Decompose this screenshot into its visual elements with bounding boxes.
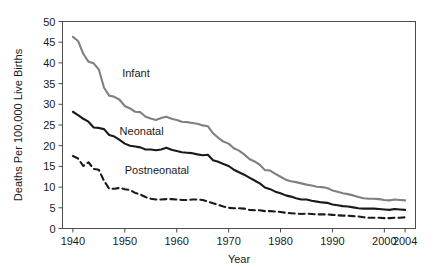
y-tick-label: 0 xyxy=(49,223,55,235)
y-tick-label: 30 xyxy=(43,98,55,110)
x-tick-label: 1940 xyxy=(61,235,85,247)
x-tick-label: 1960 xyxy=(164,235,188,247)
y-tick-label: 45 xyxy=(43,36,55,48)
y-tick-label: 20 xyxy=(43,140,55,152)
y-tick-label: 40 xyxy=(43,57,55,69)
y-axis-ticks: 05101520253035404550 xyxy=(43,16,62,235)
series-annotation-postneonatal: Postneonatal xyxy=(125,164,189,176)
x-tick-label: 1980 xyxy=(268,235,292,247)
y-tick-label: 25 xyxy=(43,119,55,131)
y-tick-label: 50 xyxy=(43,16,55,28)
series-annotation-neonatal: Neonatal xyxy=(120,125,164,137)
infant-mortality-line-chart: 05101520253035404550 1940195019601970198… xyxy=(0,0,435,267)
chart-figure: 05101520253035404550 1940195019601970198… xyxy=(0,0,435,267)
x-tick-label: 2004 xyxy=(393,235,417,247)
x-tick-label: 1970 xyxy=(216,235,240,247)
y-tick-label: 15 xyxy=(43,160,55,172)
x-axis-ticks: 19401950196019701980199020002004 xyxy=(61,229,418,247)
y-tick-label: 10 xyxy=(43,181,55,193)
x-tick-label: 1990 xyxy=(320,235,344,247)
y-axis-title: Deaths Per 100,000 Live Births xyxy=(12,48,24,201)
series-line-infant xyxy=(73,37,405,201)
x-tick-label: 1950 xyxy=(113,235,137,247)
series-line-postneonatal xyxy=(73,156,405,218)
x-axis-title: Year xyxy=(228,253,251,265)
series-annotation-infant: Infant xyxy=(122,67,150,79)
y-tick-label: 35 xyxy=(43,78,55,90)
y-tick-label: 5 xyxy=(49,202,55,214)
